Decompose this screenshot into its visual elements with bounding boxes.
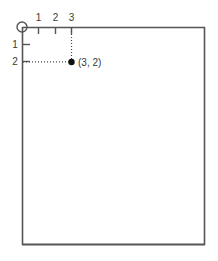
- point-coordinate-label: (3, 2): [78, 57, 101, 68]
- x-tick-label-1: 1: [36, 12, 42, 23]
- y-tick-label-1: 1: [12, 39, 18, 50]
- x-tick-label-2: 2: [53, 12, 59, 23]
- coordinate-plane-svg: 1 2 3 1 2 (3, 2): [0, 0, 218, 261]
- x-tick-label-3: 3: [69, 12, 75, 23]
- y-tick-label-2: 2: [12, 56, 18, 67]
- guide-lines: [23, 28, 72, 62]
- plotted-point-marker: [68, 59, 74, 65]
- coordinate-diagram: 1 2 3 1 2 (3, 2): [0, 0, 218, 261]
- plot-frame: [22, 27, 205, 245]
